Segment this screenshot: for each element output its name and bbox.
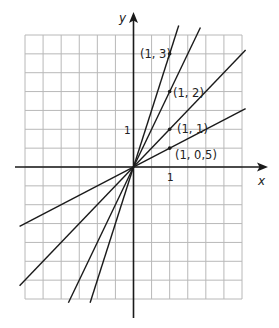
point-marker [168, 90, 172, 94]
point-label-1-3: (1, 3) [140, 47, 171, 61]
y-axis-label: y [118, 11, 127, 25]
point-label-1-0-5: (1, 0,5) [175, 148, 217, 162]
point-label-1-2: (1, 2) [173, 86, 204, 100]
point-marker [168, 146, 172, 150]
x-tick-label-1: 1 [167, 171, 174, 183]
x-axis-label: x [257, 174, 266, 188]
point-marker [168, 127, 172, 131]
point-label-1-1: (1, 1) [177, 122, 208, 136]
y-tick-label-1: 1 [124, 124, 131, 136]
coordinate-plane: x y 1 1 (1, 3) (1, 2) (1, 1) (1, 0,5) [0, 0, 279, 328]
